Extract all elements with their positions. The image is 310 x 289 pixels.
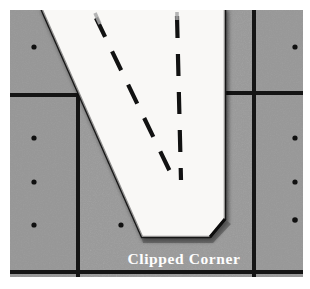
dot-marker [292,179,297,184]
dot-marker [118,222,123,227]
dot-marker [31,135,36,140]
clipped-corner-caption: Clipped Corner [127,250,240,267]
dot-marker [31,179,36,184]
dot-marker [292,44,297,49]
workpiece-photograph: Clipped Corner [0,0,310,289]
dot-marker [292,217,298,223]
photo-content: Clipped Corner [10,8,304,277]
dot-marker [31,222,36,227]
surface-shading-right [252,10,304,277]
dot-marker [31,44,36,49]
figure-container: Clipped Corner [0,0,310,289]
dot-marker [292,135,297,140]
